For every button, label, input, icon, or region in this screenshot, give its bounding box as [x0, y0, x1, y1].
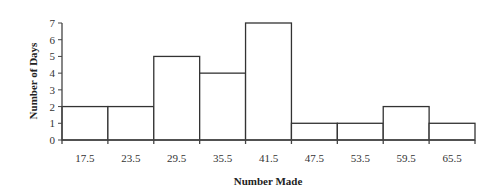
x-tick-label: 23.5 [121, 152, 141, 164]
y-tick-label: 1 [50, 117, 56, 129]
histogram-bar [200, 73, 246, 140]
x-axis-title: Number Made [234, 175, 303, 187]
x-tick-label: 29.5 [167, 152, 187, 164]
histogram-bar [383, 107, 429, 140]
y-tick-label: 3 [50, 84, 56, 96]
x-tick-label: 53.5 [351, 152, 371, 164]
histogram-chart: 01234567 17.523.529.535.541.547.553.559.… [0, 0, 497, 194]
x-tick-label: 65.5 [442, 152, 462, 164]
y-tick-label: 7 [50, 17, 56, 29]
histogram-bar [429, 123, 475, 140]
histogram-bar [291, 123, 337, 140]
x-axis: 17.523.529.535.541.547.553.559.565.5 [62, 140, 475, 164]
bars-group [62, 23, 475, 140]
y-tick-label: 2 [50, 101, 56, 113]
y-axis-title: Number of Days [27, 42, 39, 120]
histogram-bar [62, 107, 108, 140]
histogram-bar [337, 123, 383, 140]
x-tick-label: 17.5 [75, 152, 95, 164]
x-tick-label: 59.5 [397, 152, 417, 164]
histogram-bar [154, 56, 200, 140]
y-axis: 01234567 [50, 17, 63, 146]
histogram-bar [246, 23, 292, 140]
histogram-bar [108, 107, 154, 140]
y-tick-label: 6 [50, 34, 56, 46]
x-tick-label: 47.5 [305, 152, 325, 164]
y-tick-label: 0 [50, 134, 56, 146]
x-tick-label: 35.5 [213, 152, 233, 164]
y-tick-label: 5 [50, 50, 56, 62]
x-tick-label: 41.5 [259, 152, 279, 164]
y-tick-label: 4 [50, 67, 56, 79]
